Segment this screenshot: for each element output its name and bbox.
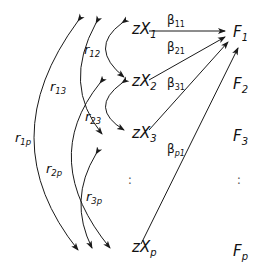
predictor-ellipsis: ·· <box>128 177 132 187</box>
factor-ellipsis: ·· <box>237 177 241 187</box>
node-zx3: zX3 <box>132 126 157 144</box>
node-zx2: zX2 <box>132 74 157 92</box>
node-zxp: zXp <box>132 240 157 258</box>
arc-r23 <box>105 83 124 130</box>
node-F1: F1 <box>233 25 248 43</box>
arc-r1p <box>34 21 78 250</box>
label-beta-11: β11 <box>167 14 185 29</box>
label-beta-21: β21 <box>167 41 185 56</box>
label-r12: r12 <box>84 43 100 59</box>
arc-r2p <box>71 83 110 248</box>
node-F2: F2 <box>233 77 248 95</box>
node-zx1: zX1 <box>132 22 157 40</box>
arc-r12 <box>105 23 124 77</box>
label-r13: r13 <box>50 80 66 96</box>
path-beta-31 <box>149 42 228 130</box>
label-beta-p1: βp1 <box>167 143 185 158</box>
label-r1p: r1p <box>15 131 31 147</box>
label-r23: r23 <box>85 110 101 126</box>
label-beta-31: β31 <box>167 77 185 92</box>
node-Fp: Fp <box>233 244 248 262</box>
label-r2p: r2p <box>46 162 62 178</box>
node-F3: F3 <box>233 129 248 147</box>
diagram-canvas <box>0 0 258 277</box>
label-r3p: r3p <box>86 190 102 206</box>
